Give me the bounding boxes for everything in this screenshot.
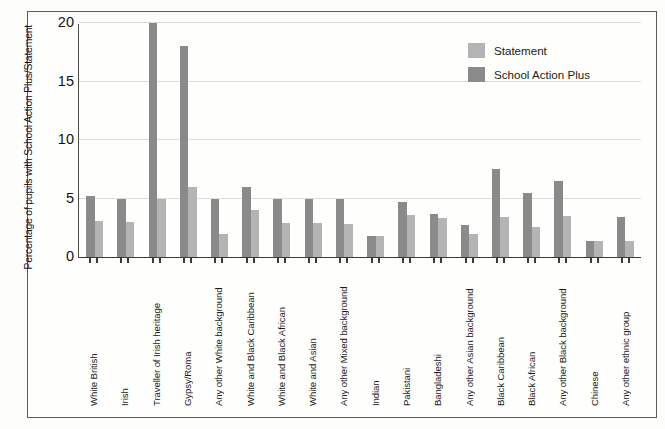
x-axis-label-text: Irish bbox=[119, 266, 130, 406]
x-axis-label-cell: Black African bbox=[516, 266, 547, 406]
y-tick-label-5: 5 bbox=[66, 190, 74, 206]
x-tick-cell bbox=[109, 258, 140, 264]
x-tick-cell bbox=[266, 258, 297, 264]
x-axis-label-text: Traveller of Irish heritage bbox=[151, 266, 162, 406]
bar-school-action-plus bbox=[117, 199, 126, 258]
x-tickmark bbox=[503, 258, 505, 263]
bar-statement bbox=[95, 221, 104, 257]
x-tickmark bbox=[409, 258, 411, 263]
x-axis-label-text: White and Asian bbox=[307, 266, 318, 406]
x-tick-cell bbox=[610, 258, 641, 264]
y-tick-label-20: 20 bbox=[58, 14, 74, 30]
x-tick-cell bbox=[422, 258, 453, 264]
x-axis-label-text: Gypsy/Roma bbox=[182, 266, 193, 406]
x-axis-label-cell: White and Black Caribbean bbox=[234, 266, 265, 406]
x-tickmark bbox=[378, 258, 380, 263]
x-axis-label-cell: Bangladeshi bbox=[422, 266, 453, 406]
x-axis-label-cell: Any other ethnic group bbox=[610, 266, 641, 406]
x-tickmark bbox=[253, 258, 255, 263]
x-tickmark bbox=[96, 258, 98, 263]
x-axis-label-cell: Black Caribbean bbox=[485, 266, 516, 406]
bar-statement bbox=[625, 241, 634, 257]
legend-swatch-sap bbox=[468, 67, 485, 82]
bar-statement bbox=[376, 236, 385, 257]
x-tickmark bbox=[440, 258, 442, 263]
bar-statement bbox=[438, 218, 447, 257]
bar-school-action-plus bbox=[86, 196, 95, 257]
gridline-20: 20 bbox=[79, 22, 641, 23]
legend-item: School Action Plus bbox=[468, 67, 590, 82]
x-axis-label-cell: Chinese bbox=[579, 266, 610, 406]
bar-group bbox=[298, 24, 329, 257]
x-axis-label-cell: Any other White background bbox=[203, 266, 234, 406]
x-axis-label-text: Indian bbox=[370, 266, 381, 406]
bar-statement bbox=[532, 227, 541, 257]
x-axis-label-text: White British bbox=[88, 266, 99, 406]
x-axis-tickmarks bbox=[78, 258, 641, 264]
legend-label: School Action Plus bbox=[494, 68, 590, 81]
x-tick-cell bbox=[78, 258, 109, 264]
x-tick-cell bbox=[172, 258, 203, 264]
x-tick-cell bbox=[453, 258, 484, 264]
x-axis-label-cell: Any other Asian background bbox=[453, 266, 484, 406]
y-tick-label-10: 10 bbox=[58, 131, 74, 147]
bar-statement bbox=[469, 234, 478, 257]
bar-school-action-plus bbox=[180, 46, 189, 257]
x-axis-label-cell: Any other Mixed background bbox=[328, 266, 359, 406]
x-axis-label-cell: White and Black African bbox=[266, 266, 297, 406]
bar-school-action-plus bbox=[242, 187, 251, 257]
bar-group bbox=[360, 24, 391, 257]
bar-statement bbox=[344, 224, 353, 257]
bar-group bbox=[110, 24, 141, 257]
y-axis-title-text: Percentage of pupils with School Action … bbox=[23, 25, 34, 270]
bar-statement bbox=[251, 210, 260, 257]
bar-school-action-plus bbox=[430, 214, 439, 257]
bar-school-action-plus bbox=[461, 225, 470, 257]
x-axis-label-cell: White and Asian bbox=[297, 266, 328, 406]
x-tick-cell bbox=[203, 258, 234, 264]
chart-page: Percentage of pupils with School Action … bbox=[0, 0, 665, 429]
x-axis-label-text: White and Black Caribbean bbox=[245, 266, 256, 406]
x-axis-label-cell: Any other Black background bbox=[547, 266, 578, 406]
x-axis-label-text: Black African bbox=[526, 266, 537, 406]
legend-swatch-stmt bbox=[468, 43, 485, 58]
bar-school-action-plus bbox=[617, 217, 626, 257]
bar-statement bbox=[313, 223, 322, 257]
x-axis-label-cell: Pakistani bbox=[391, 266, 422, 406]
x-axis-label-cell: Traveller of Irish heritage bbox=[141, 266, 172, 406]
legend-label: Statement bbox=[494, 44, 547, 57]
x-tick-cell bbox=[360, 258, 391, 264]
x-tickmark bbox=[346, 258, 348, 263]
x-axis-label-text: White and Black African bbox=[276, 266, 287, 406]
bar-group bbox=[235, 24, 266, 257]
x-tickmark bbox=[127, 258, 129, 263]
x-tickmark bbox=[221, 258, 223, 263]
x-axis-label-text: Bangladeshi bbox=[432, 266, 443, 406]
x-tickmark bbox=[534, 258, 536, 263]
bar-school-action-plus bbox=[149, 23, 158, 257]
x-tickmark bbox=[159, 258, 161, 263]
bar-group bbox=[329, 24, 360, 257]
x-axis-label-text: Pakistani bbox=[401, 266, 412, 406]
bar-statement bbox=[126, 222, 135, 257]
x-tickmark bbox=[190, 258, 192, 263]
x-axis-label-text: Any other Mixed background bbox=[338, 266, 349, 406]
x-tick-cell bbox=[547, 258, 578, 264]
bar-school-action-plus bbox=[273, 199, 282, 258]
bar-statement bbox=[219, 234, 228, 257]
x-tickmark bbox=[315, 258, 317, 263]
x-tickmark bbox=[284, 258, 286, 263]
x-tick-cell bbox=[579, 258, 610, 264]
bar-school-action-plus bbox=[211, 199, 220, 258]
x-axis-label-cell: Indian bbox=[360, 266, 391, 406]
bar-group bbox=[204, 24, 235, 257]
x-tickmark bbox=[472, 258, 474, 263]
x-tickmark bbox=[628, 258, 630, 263]
bar-school-action-plus bbox=[492, 169, 501, 257]
bar-statement bbox=[188, 187, 197, 257]
bar-statement bbox=[594, 241, 603, 257]
x-tick-cell bbox=[328, 258, 359, 264]
bar-group bbox=[422, 24, 453, 257]
x-axis-label-text: Any other White background bbox=[213, 266, 224, 406]
bar-school-action-plus bbox=[336, 199, 345, 258]
